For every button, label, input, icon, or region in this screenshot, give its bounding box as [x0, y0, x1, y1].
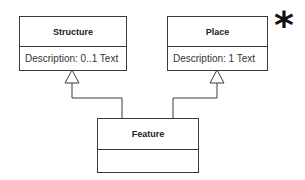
asterisk-marker: * — [274, 6, 294, 44]
class-attribute: Description: 0..1 Text — [20, 47, 126, 70]
class-feature: Feature — [97, 118, 199, 173]
generalization-line-structure — [72, 83, 122, 118]
class-attributes-empty — [98, 150, 198, 172]
class-name: Place — [168, 17, 267, 47]
class-name: Feature — [98, 119, 198, 150]
generalization-line-place — [173, 83, 217, 118]
class-place: Place Description: 1 Text — [167, 16, 268, 71]
class-attribute: Description: 1 Text — [168, 47, 267, 70]
inheritance-arrow-icon — [210, 70, 224, 83]
class-name: Structure — [20, 17, 126, 47]
inheritance-arrow-icon — [65, 70, 79, 83]
class-structure: Structure Description: 0..1 Text — [19, 16, 127, 71]
